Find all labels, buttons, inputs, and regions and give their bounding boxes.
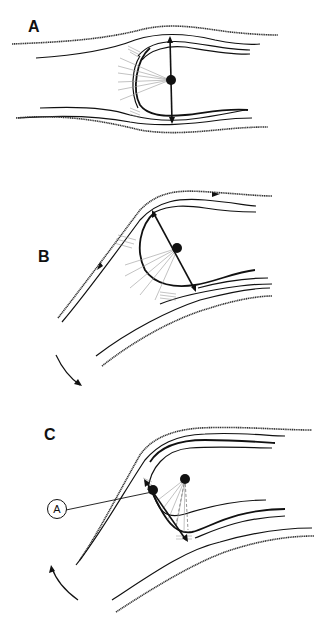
panel-a-rays <box>118 58 170 100</box>
panel-a-upper-wall <box>12 26 278 44</box>
callout-a: A <box>47 499 67 519</box>
panel-c-projection <box>185 479 188 530</box>
panel-c-streamline <box>112 528 312 600</box>
panel-c-center-point <box>180 474 190 484</box>
rotation-arrow <box>56 355 80 385</box>
panel-label-c: C <box>44 426 56 444</box>
panel-b-lower-wall <box>102 296 272 366</box>
panel-c-lower-wall <box>116 536 314 612</box>
rotation-arrow-icon <box>74 379 82 386</box>
panel-label-a: A <box>28 18 40 36</box>
panel-c-pivot-point <box>148 485 158 495</box>
rotation-arrow <box>52 568 78 600</box>
panel-a-bow-structure <box>136 48 248 116</box>
panel-b-bow-structure <box>140 212 255 286</box>
panel-c-streamline <box>76 433 285 565</box>
panel-b-rays <box>125 248 178 300</box>
panel-b-streamline <box>96 288 270 356</box>
panel-label-b: B <box>38 248 50 266</box>
panel-a-center-point <box>166 75 176 85</box>
panel-a <box>12 26 278 133</box>
panel-b <box>56 191 272 386</box>
callout-leader-line <box>66 492 152 510</box>
panel-b-streamline <box>160 284 272 304</box>
panel-b-streamline <box>155 206 256 212</box>
panel-b-center-point <box>172 243 182 253</box>
panel-c-streamline <box>195 516 285 538</box>
arrowhead-icon <box>167 36 173 43</box>
panel-c <box>49 427 314 612</box>
panel-c-streamline <box>148 447 272 490</box>
panel-c-bow-structure <box>152 492 285 532</box>
diagram-canvas <box>0 0 330 621</box>
panel-c-streamline <box>150 440 275 462</box>
panel-b-hatching <box>114 235 176 300</box>
